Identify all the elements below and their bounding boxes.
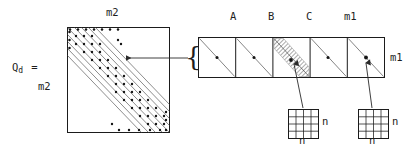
qd-equation-label: Qd= xyxy=(12,62,37,76)
diagram-artwork xyxy=(0,0,417,150)
qd-subscript: d xyxy=(18,66,23,75)
qd-dimension-label: m2 xyxy=(38,81,51,92)
strip-right-label: m1 xyxy=(390,52,403,63)
figure-canvas: Qd= m2 m2 { A B C m1 m1 n n n n xyxy=(0,0,417,150)
grid-b-label-right: n xyxy=(322,116,328,127)
column-label-b: B xyxy=(268,11,274,22)
column-label-c: C xyxy=(306,11,312,22)
block-row-strip xyxy=(199,38,385,78)
grid-b-label-below: n xyxy=(299,135,305,146)
equals-sign: = xyxy=(31,61,37,73)
grid-m1-label-below: n xyxy=(369,135,375,146)
qd-matrix-square xyxy=(68,28,170,133)
column-label-m1: m1 xyxy=(344,11,357,22)
curly-brace-icon: { xyxy=(185,44,202,70)
matrix-top-label: m2 xyxy=(106,7,119,18)
column-label-a: A xyxy=(230,11,236,22)
grid-m1-label-right: n xyxy=(392,116,398,127)
